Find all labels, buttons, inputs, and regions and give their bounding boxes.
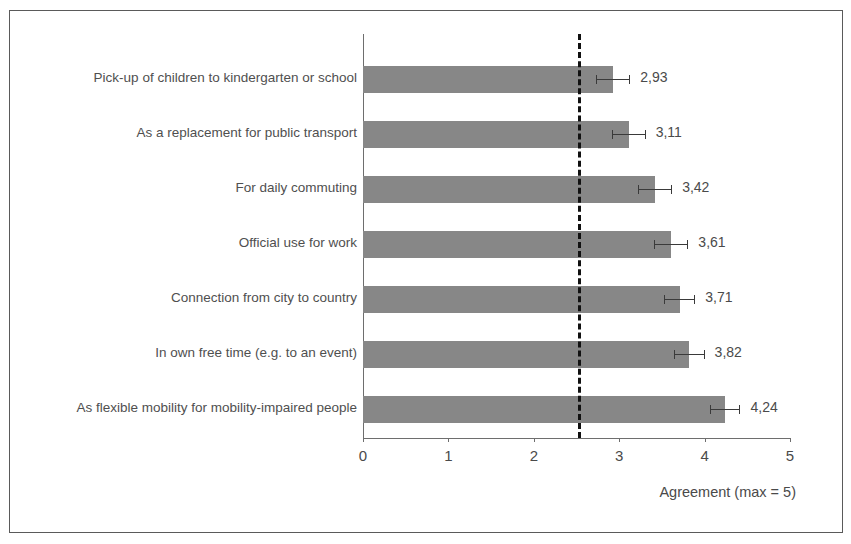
x-tick-mark [363, 438, 364, 442]
bar [363, 231, 671, 258]
bar-value-label: 3,82 [715, 344, 742, 360]
x-tick-label: 5 [778, 447, 802, 464]
error-bar-cap-high [645, 130, 646, 139]
error-bar-cap-low [654, 240, 655, 249]
x-tick-mark [619, 438, 620, 442]
bar-value-label: 2,93 [640, 69, 667, 85]
bar [363, 121, 629, 148]
category-label: Connection from city to country [171, 290, 357, 305]
bar-row: 2,93 [363, 52, 790, 107]
bar-value-label: 4,24 [750, 399, 777, 415]
error-bar [638, 189, 672, 190]
x-tick-label: 2 [522, 447, 546, 464]
bar-value-label: 3,42 [682, 179, 709, 195]
error-bar-cap-high [629, 75, 630, 84]
error-bar-cap-high [704, 350, 705, 359]
bar-row: 3,61 [363, 217, 790, 272]
bar [363, 66, 613, 93]
error-bar [654, 244, 688, 245]
x-tick-mark [790, 438, 791, 442]
category-label: Official use for work [239, 235, 357, 250]
bar [363, 176, 655, 203]
bar-value-label: 3,11 [656, 124, 682, 140]
error-bar-cap-high [687, 240, 688, 249]
bar [363, 396, 725, 423]
x-axis-line [363, 438, 791, 439]
error-bar-cap-low [596, 75, 597, 84]
error-bar [596, 79, 630, 80]
x-tick-label: 4 [693, 447, 717, 464]
category-label: As a replacement for public transport [136, 125, 357, 140]
error-bar-cap-high [739, 405, 740, 414]
category-label: Pick-up of children to kindergarten or s… [94, 70, 357, 85]
category-label: For daily commuting [235, 180, 357, 195]
plot-area: 2,933,113,423,613,713,824,24 [363, 34, 790, 438]
x-tick-mark [534, 438, 535, 442]
bar-value-label: 3,71 [705, 289, 732, 305]
bar [363, 286, 680, 313]
x-axis-title: Agreement (max = 5) [659, 484, 796, 500]
error-bar-cap-low [638, 185, 639, 194]
error-bar-cap-high [671, 185, 672, 194]
error-bar [664, 299, 695, 300]
error-bar-cap-high [694, 295, 695, 304]
x-tick-label: 0 [351, 447, 375, 464]
bar [363, 341, 689, 368]
bar-row: 3,11 [363, 107, 790, 162]
chart-figure: Pick-up of children to kindergarten or s… [0, 0, 851, 544]
x-tick-label: 1 [436, 447, 460, 464]
error-bar-cap-low [674, 350, 675, 359]
error-bar [710, 409, 741, 410]
bar-row: 3,71 [363, 272, 790, 327]
error-bar [674, 354, 705, 355]
category-label: As flexible mobility for mobility-impair… [76, 400, 357, 415]
category-label: In own free time (e.g. to an event) [155, 345, 357, 360]
category-label-column: Pick-up of children to kindergarten or s… [20, 34, 357, 438]
x-tick-mark [705, 438, 706, 442]
bar-row: 4,24 [363, 382, 790, 437]
bar-value-label: 3,61 [698, 234, 725, 250]
threshold-reference-line [578, 34, 581, 438]
error-bar-cap-low [710, 405, 711, 414]
error-bar-cap-low [664, 295, 665, 304]
error-bar-cap-low [612, 130, 613, 139]
bar-row: 3,82 [363, 327, 790, 382]
error-bar [612, 134, 646, 135]
bar-row: 3,42 [363, 162, 790, 217]
x-tick-label: 3 [607, 447, 631, 464]
x-tick-mark [448, 438, 449, 442]
